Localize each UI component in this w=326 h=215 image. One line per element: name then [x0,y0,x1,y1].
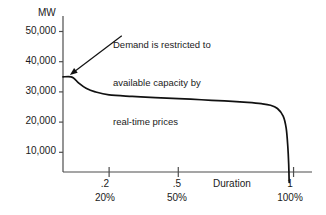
x-tick-label-20pct: 20% [82,192,128,204]
y-tick-label-40000: 40,000 [4,55,56,67]
x-tick-label-05: .5 [157,178,197,190]
x-tick-label-1: 1 [270,178,310,190]
y-tick-label-10000: 10,000 [4,145,56,157]
annotation-line-1: Demand is restricted to [113,39,211,52]
x-tick-label-02: .2 [85,178,125,190]
annotation-arrow-head [70,68,78,75]
y-tick-label-20000: 20,000 [4,115,56,127]
x-tick-label-100pct: 100% [267,192,313,204]
capacity-restriction-annotation: Demand is restricted to available capaci… [113,13,211,154]
x-tick-label-50pct: 50% [154,192,200,204]
load-duration-chart: MW 50,000 40,000 30,000 20,000 10,000 .2… [0,0,326,215]
y-axis-unit-label: MW [38,7,56,19]
y-tick-label-30000: 30,000 [4,85,56,97]
x-axis-title: Duration [213,178,251,190]
annotation-line-3: real-time prices [113,116,211,129]
y-tick-label-50000: 50,000 [4,25,56,37]
annotation-line-2: available capacity by [113,77,211,90]
